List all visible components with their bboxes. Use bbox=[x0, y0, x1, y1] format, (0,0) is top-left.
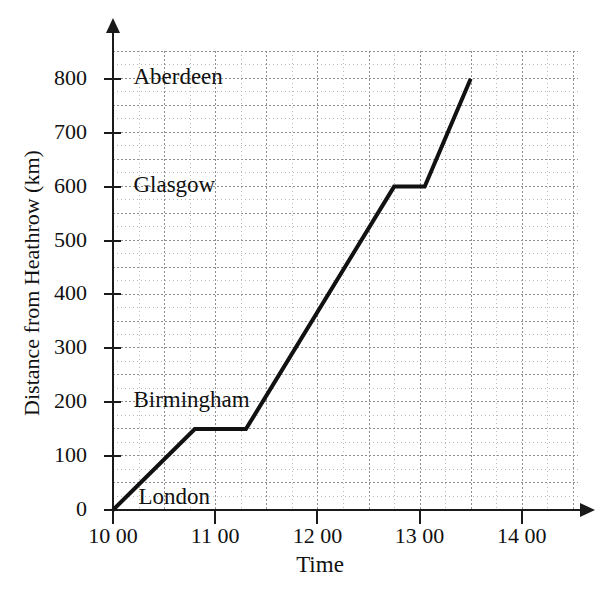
city-label-birmingham: Birmingham bbox=[133, 388, 249, 411]
journey-line bbox=[113, 79, 471, 510]
y-axis-title: Distance from Heathrow (km) bbox=[19, 73, 45, 493]
city-label-glasgow: Glasgow bbox=[133, 173, 215, 196]
city-label-london: London bbox=[139, 485, 211, 508]
city-label-aberdeen: Aberdeen bbox=[133, 65, 222, 88]
x-axis-title: Time bbox=[250, 552, 390, 578]
journey-line-chart bbox=[0, 0, 605, 593]
distance-time-graph: 0100200300400500600700800 10 0011 0012 0… bbox=[0, 0, 605, 593]
